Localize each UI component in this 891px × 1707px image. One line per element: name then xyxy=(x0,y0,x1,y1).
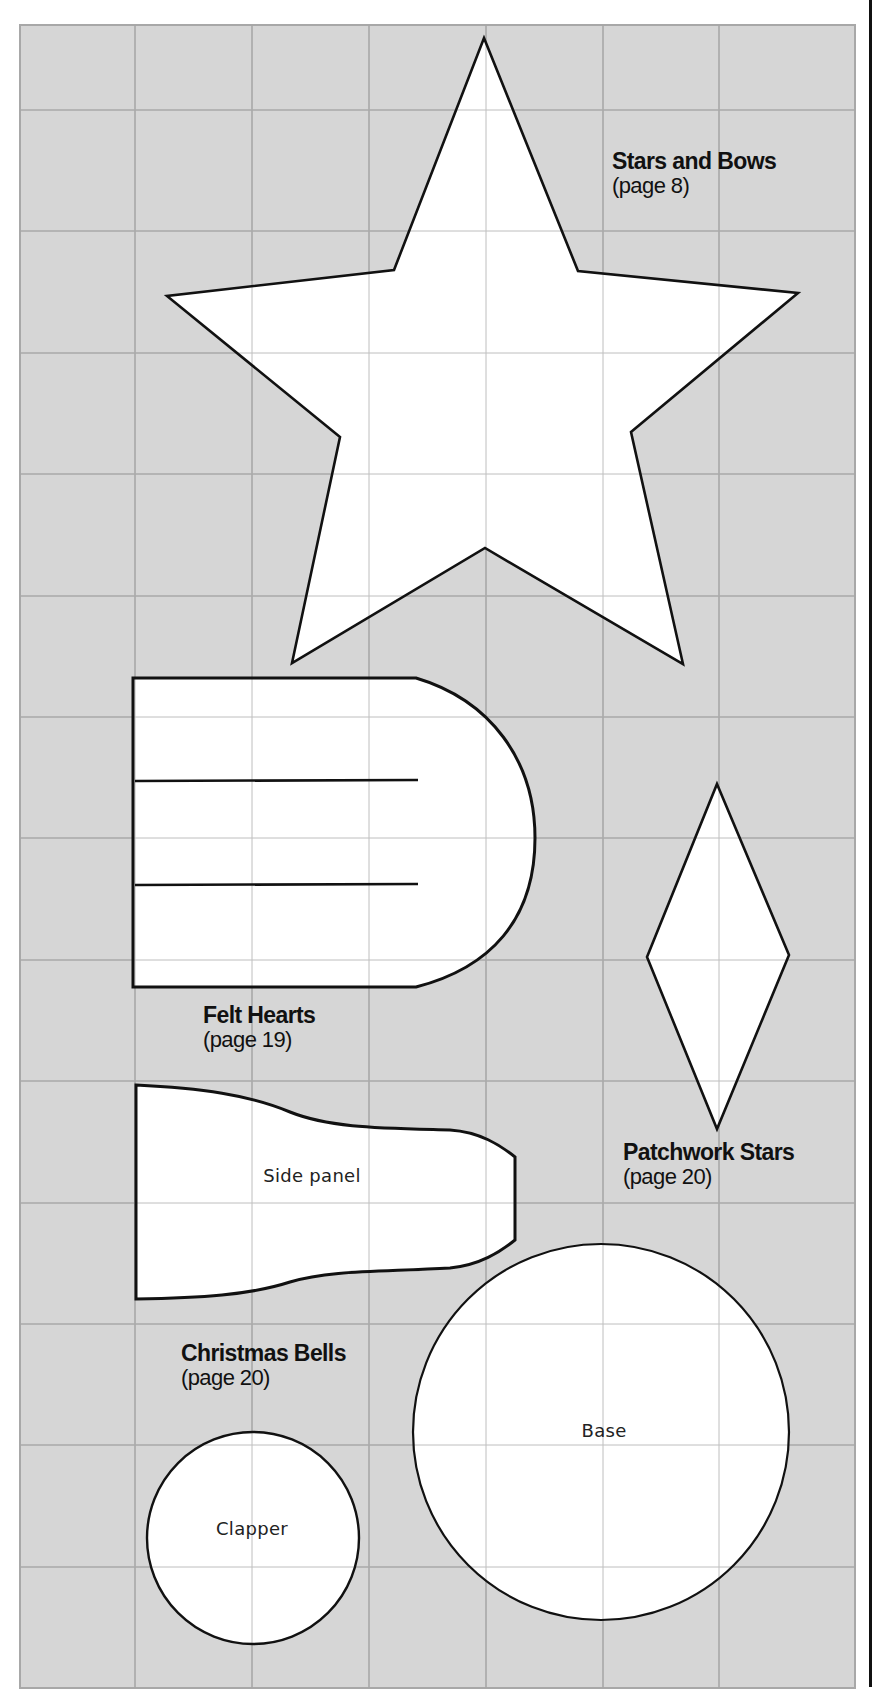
pattern-page-ref: (page 20) xyxy=(181,1366,346,1390)
piece-label-base: Base xyxy=(581,1420,626,1441)
label-christmas-bells: Christmas Bells (page 20) xyxy=(181,1341,346,1390)
pattern-title: Stars and Bows xyxy=(612,149,776,174)
label-patchwork-stars: Patchwork Stars (page 20) xyxy=(623,1140,794,1189)
label-stars-and-bows: Stars and Bows (page 8) xyxy=(612,149,776,198)
page-margin-rule xyxy=(869,0,872,1687)
pattern-title: Patchwork Stars xyxy=(623,1140,794,1165)
pattern-page-ref: (page 19) xyxy=(203,1028,315,1052)
pattern-page: Stars and Bows (page 8) Felt Hearts (pag… xyxy=(0,0,891,1707)
pattern-title: Felt Hearts xyxy=(203,1003,315,1028)
felt-heart-fill xyxy=(133,678,535,987)
piece-label-side-panel: Side panel xyxy=(263,1165,361,1186)
pattern-grid-sheet xyxy=(0,0,891,1707)
pattern-page-ref: (page 20) xyxy=(623,1165,794,1189)
pattern-page-ref: (page 8) xyxy=(612,174,776,198)
piece-label-clapper: Clapper xyxy=(216,1518,288,1539)
pattern-title: Christmas Bells xyxy=(181,1341,346,1366)
felt-heart-slit-lower xyxy=(135,884,418,885)
felt-heart-slit-upper xyxy=(135,780,418,781)
label-felt-hearts: Felt Hearts (page 19) xyxy=(203,1003,315,1052)
